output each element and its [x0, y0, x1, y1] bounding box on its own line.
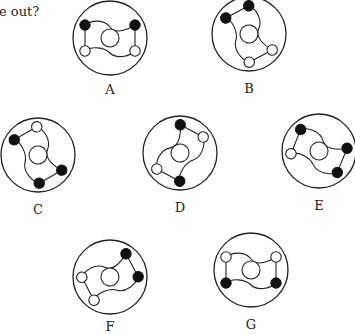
center-hub: [237, 22, 261, 46]
filled-dot: [340, 142, 354, 156]
center-hub: [168, 141, 192, 165]
band: [150, 118, 211, 189]
figure-label-a: A: [104, 82, 115, 97]
band: [7, 120, 69, 191]
band: [221, 252, 281, 289]
puzzle-figure: e out? A B C D E F G: [0, 0, 355, 334]
filled-dot: [173, 174, 187, 188]
figure-label-f: F: [105, 319, 114, 334]
filled-dot: [221, 278, 231, 288]
filled-dot: [32, 176, 46, 190]
figure-label-b: B: [244, 81, 254, 96]
filled-dot: [242, 0, 256, 13]
filled-dot: [55, 163, 69, 177]
hollow-dot: [87, 293, 101, 307]
filled-dot: [331, 166, 345, 180]
wavy-edge-bottom: [85, 48, 135, 57]
filled-dot: [7, 133, 21, 147]
figure-a[interactable]: A: [73, 1, 147, 97]
figure-b[interactable]: B: [212, 0, 286, 96]
filled-dot: [294, 123, 308, 137]
center-hub: [98, 265, 122, 289]
hollow-dot: [75, 270, 89, 284]
figure-label-c: C: [33, 202, 43, 217]
filled-dot: [130, 20, 140, 30]
filled-dot: [219, 11, 233, 25]
hollow-dot: [221, 252, 231, 262]
figure-c[interactable]: C: [1, 118, 75, 217]
figure-label-e: E: [314, 198, 324, 213]
filled-dot: [119, 247, 133, 261]
hollow-dot: [284, 147, 298, 161]
filled-dot: [131, 270, 145, 284]
band: [80, 20, 140, 57]
hollow-dot: [271, 252, 281, 262]
figure-f[interactable]: F: [73, 240, 147, 334]
question-text: e out?: [0, 4, 39, 19]
band: [75, 247, 146, 308]
wavy-edge-bottom: [226, 280, 276, 289]
hollow-dot: [265, 43, 279, 57]
figure-g[interactable]: G: [214, 233, 288, 332]
band: [218, 0, 279, 69]
filled-dot: [271, 278, 281, 288]
figure-label-d: D: [175, 200, 185, 215]
filled-dot: [173, 118, 187, 132]
hollow-dot: [30, 120, 44, 134]
band: [284, 123, 354, 180]
center-hub: [101, 29, 119, 47]
hollow-dot: [130, 46, 140, 56]
filled-dot: [80, 20, 90, 30]
center-hub: [242, 261, 260, 279]
center-hub: [307, 139, 330, 162]
figure-e[interactable]: E: [282, 114, 355, 213]
figure-label-g: G: [246, 317, 256, 332]
hollow-dot: [150, 162, 164, 176]
hollow-dot: [242, 55, 256, 69]
center-hub: [26, 143, 51, 168]
hollow-dot: [196, 130, 210, 144]
figure-d[interactable]: D: [143, 116, 217, 215]
hollow-dot: [80, 46, 90, 56]
